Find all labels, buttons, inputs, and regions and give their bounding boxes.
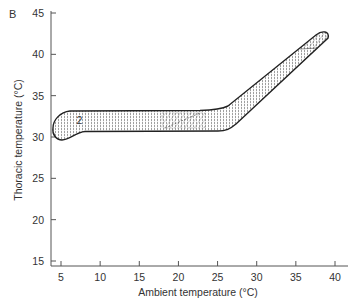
x-tick-label: 30: [251, 271, 263, 283]
y-tick-label: 20: [32, 214, 44, 226]
y-tick-label: 45: [32, 7, 44, 19]
temperature-band: [53, 32, 328, 140]
x-axis-label: Ambient temperature (°C): [138, 286, 258, 298]
y-tick-label: 35: [32, 90, 44, 102]
x-tick-label: 10: [94, 271, 106, 283]
x-tick-label: 15: [133, 271, 145, 283]
x-tick-label: 20: [173, 271, 185, 283]
x-tick-label: 35: [290, 271, 302, 283]
y-axis-label: Thoracic temperature (°C): [12, 79, 24, 200]
band-annotation: 2: [77, 114, 83, 126]
x-tick-label: 25: [212, 271, 224, 283]
y-tick-label: 40: [32, 48, 44, 60]
chart: 15202530354045 510152025303540 2 Ambient…: [0, 0, 356, 305]
y-ticks: 15202530354045: [32, 7, 56, 267]
x-tick-label: 40: [329, 271, 341, 283]
y-tick-label: 30: [32, 131, 44, 143]
x-ticks: 510152025303540: [58, 261, 341, 283]
y-tick-label: 15: [32, 255, 44, 267]
y-tick-label: 25: [32, 172, 44, 184]
x-tick-label: 5: [58, 271, 64, 283]
